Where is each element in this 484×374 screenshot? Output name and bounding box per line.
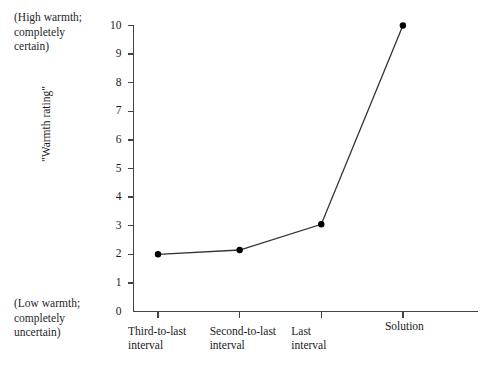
y-tick-label: 0: [96, 306, 122, 318]
axes: [134, 26, 479, 312]
y-tick-label: 5: [96, 163, 122, 175]
y-tick-label: 8: [96, 77, 122, 89]
y-tick-label: 10: [96, 20, 122, 32]
line-chart: (High warmth; completely certain) (Low w…: [0, 0, 484, 374]
data-point-marker: [400, 22, 406, 28]
y-tick-label: 9: [96, 48, 122, 60]
y-tick-label: 1: [96, 277, 122, 289]
data-series: [155, 22, 406, 257]
data-point-marker: [236, 247, 242, 253]
data-point-marker: [318, 221, 324, 227]
y-tick-label: 2: [96, 248, 122, 260]
x-tick-label: Last interval: [291, 324, 326, 353]
x-tick-label: Second-to-last interval: [210, 324, 276, 353]
tick-marks: [128, 26, 403, 318]
y-tick-label: 4: [96, 191, 122, 203]
y-tick-label: 6: [96, 134, 122, 146]
data-line: [158, 26, 403, 255]
y-tick-label: 3: [96, 220, 122, 232]
data-point-marker: [155, 251, 161, 257]
x-tick-label: Third-to-last interval: [128, 324, 186, 353]
x-tick-label: Solution: [385, 319, 424, 334]
y-tick-label: 7: [96, 105, 122, 117]
